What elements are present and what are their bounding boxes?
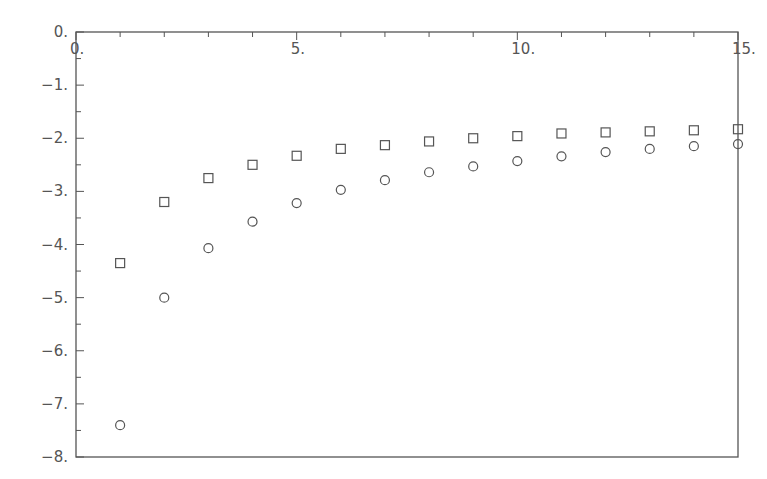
x-tick-label: 5. bbox=[291, 40, 305, 58]
square-marker bbox=[248, 160, 257, 169]
square-marker bbox=[469, 134, 478, 143]
x-axis-ticks: 0.5.10.15. bbox=[70, 32, 756, 58]
circle-marker bbox=[380, 176, 389, 185]
square-marker bbox=[557, 129, 566, 138]
circle-marker bbox=[601, 148, 610, 157]
circle-marker bbox=[248, 217, 257, 226]
y-tick-label: 0. bbox=[54, 23, 68, 41]
y-tick-label: −6. bbox=[41, 342, 68, 360]
circle-marker bbox=[204, 244, 213, 253]
circle-marker bbox=[557, 152, 566, 161]
square-marker bbox=[380, 141, 389, 150]
y-tick-label: −1. bbox=[41, 76, 68, 94]
y-tick-label: −3. bbox=[41, 182, 68, 200]
scatter-chart: 0.5.10.15. 0.−1.−2.−3.−4.−5.−6.−7.−8. bbox=[0, 0, 767, 479]
circle-marker bbox=[513, 157, 522, 166]
circle-marker bbox=[469, 162, 478, 171]
y-tick-label: −2. bbox=[41, 129, 68, 147]
circle-marker bbox=[160, 293, 169, 302]
square-marker bbox=[601, 128, 610, 137]
circle-marker bbox=[689, 142, 698, 151]
square-marker bbox=[204, 174, 213, 183]
y-tick-label: −4. bbox=[41, 236, 68, 254]
y-axis-ticks: 0.−1.−2.−3.−4.−5.−6.−7.−8. bbox=[41, 23, 84, 466]
circle-marker bbox=[292, 199, 301, 208]
square-marker bbox=[425, 137, 434, 146]
circle-marker bbox=[425, 168, 434, 177]
square-marker bbox=[160, 198, 169, 207]
x-tick-label: 0. bbox=[70, 40, 84, 58]
x-tick-label: 10. bbox=[511, 40, 535, 58]
data-points bbox=[116, 125, 743, 430]
square-marker bbox=[336, 144, 345, 153]
square-marker bbox=[689, 126, 698, 135]
square-marker bbox=[645, 127, 654, 136]
axes-frame bbox=[76, 32, 738, 457]
square-marker bbox=[292, 151, 301, 160]
circle-marker bbox=[645, 144, 654, 153]
series-squares bbox=[116, 125, 743, 268]
x-tick-label: 15. bbox=[732, 40, 756, 58]
circle-marker bbox=[336, 185, 345, 194]
square-marker bbox=[513, 132, 522, 141]
y-tick-label: −7. bbox=[41, 395, 68, 413]
plot-frame bbox=[76, 32, 738, 457]
square-marker bbox=[116, 259, 125, 268]
y-tick-label: −8. bbox=[41, 448, 68, 466]
y-tick-label: −5. bbox=[41, 289, 68, 307]
circle-marker bbox=[116, 421, 125, 430]
